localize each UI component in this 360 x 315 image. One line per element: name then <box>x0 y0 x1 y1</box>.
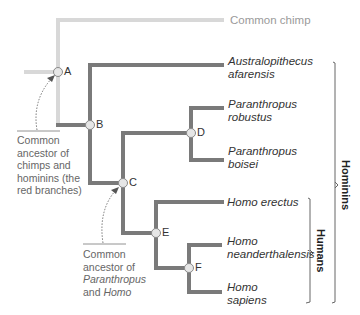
taxon-genus: Australopithecus <box>228 55 313 68</box>
node-label-e: E <box>162 226 169 238</box>
taxon-paranthropus-boisei: Paranthropus boisei <box>228 145 297 171</box>
group-label-hominins: Hominins <box>340 160 352 210</box>
note-c-arrowhead <box>111 187 119 194</box>
hominins-bracket <box>332 62 335 303</box>
taxon-genus: Homo <box>227 235 315 248</box>
note-a-arrowhead <box>47 75 55 82</box>
annotation-genus-homo: Homo <box>103 286 131 298</box>
annotation-node-a: Common ancestor of chimps and hominins (… <box>17 134 82 197</box>
taxon-paranthropus-robustus: Paranthropus robustus <box>228 98 297 124</box>
node-label-a: A <box>64 65 71 77</box>
annotation-line: hominins (the <box>17 172 82 185</box>
group-label-humans: Humans <box>315 229 327 272</box>
annotation-line: and <box>83 286 103 298</box>
node-d-marker <box>187 129 196 138</box>
node-e-marker <box>152 229 161 238</box>
taxon-genus: Paranthropus <box>228 145 297 158</box>
taxon-homo-erectus: Homo erectus <box>227 196 299 209</box>
taxon-name: Homo erectus <box>227 196 299 208</box>
node-b-marker <box>86 121 95 130</box>
taxon-australopithecus-afarensis: Australopithecus afarensis <box>228 55 313 81</box>
taxon-species: afarensis <box>228 68 313 81</box>
taxon-homo-sapiens: Homo sapiens <box>227 281 267 307</box>
annotation-genus-paranthropus: Paranthropus <box>83 273 146 285</box>
node-label-c: C <box>129 176 137 188</box>
node-label-b: B <box>96 118 103 130</box>
node-label-d: D <box>197 126 205 138</box>
annotation-line: red branches) <box>17 184 82 197</box>
annotation-line: Common <box>83 248 146 261</box>
taxon-common-chimp: Common chimp <box>230 14 311 27</box>
annotation-line: ancestor of <box>17 147 82 160</box>
annotation-line: Common <box>17 134 82 147</box>
node-c-marker <box>119 179 128 188</box>
note-a-dotted-arrow <box>36 78 52 130</box>
node-label-f: F <box>195 261 202 273</box>
taxon-species: robustus <box>228 111 297 124</box>
annotation-line: chimps and <box>17 159 82 172</box>
annotation-line: ancestor of <box>83 261 146 274</box>
taxon-species: sapiens <box>227 294 267 307</box>
taxon-homo-neanderthalensis: Homo neanderthalensis <box>227 235 315 261</box>
taxon-genus: Paranthropus <box>228 98 297 111</box>
note-c-dotted-arrow <box>102 190 116 243</box>
taxon-name: Common chimp <box>230 14 311 26</box>
taxon-species: neanderthalensis <box>227 248 315 261</box>
node-f-marker <box>185 264 194 273</box>
taxon-genus: Homo <box>227 281 267 294</box>
annotation-node-c: Common ancestor of Paranthropus and Homo <box>83 248 146 298</box>
taxon-species: boisei <box>228 158 297 171</box>
